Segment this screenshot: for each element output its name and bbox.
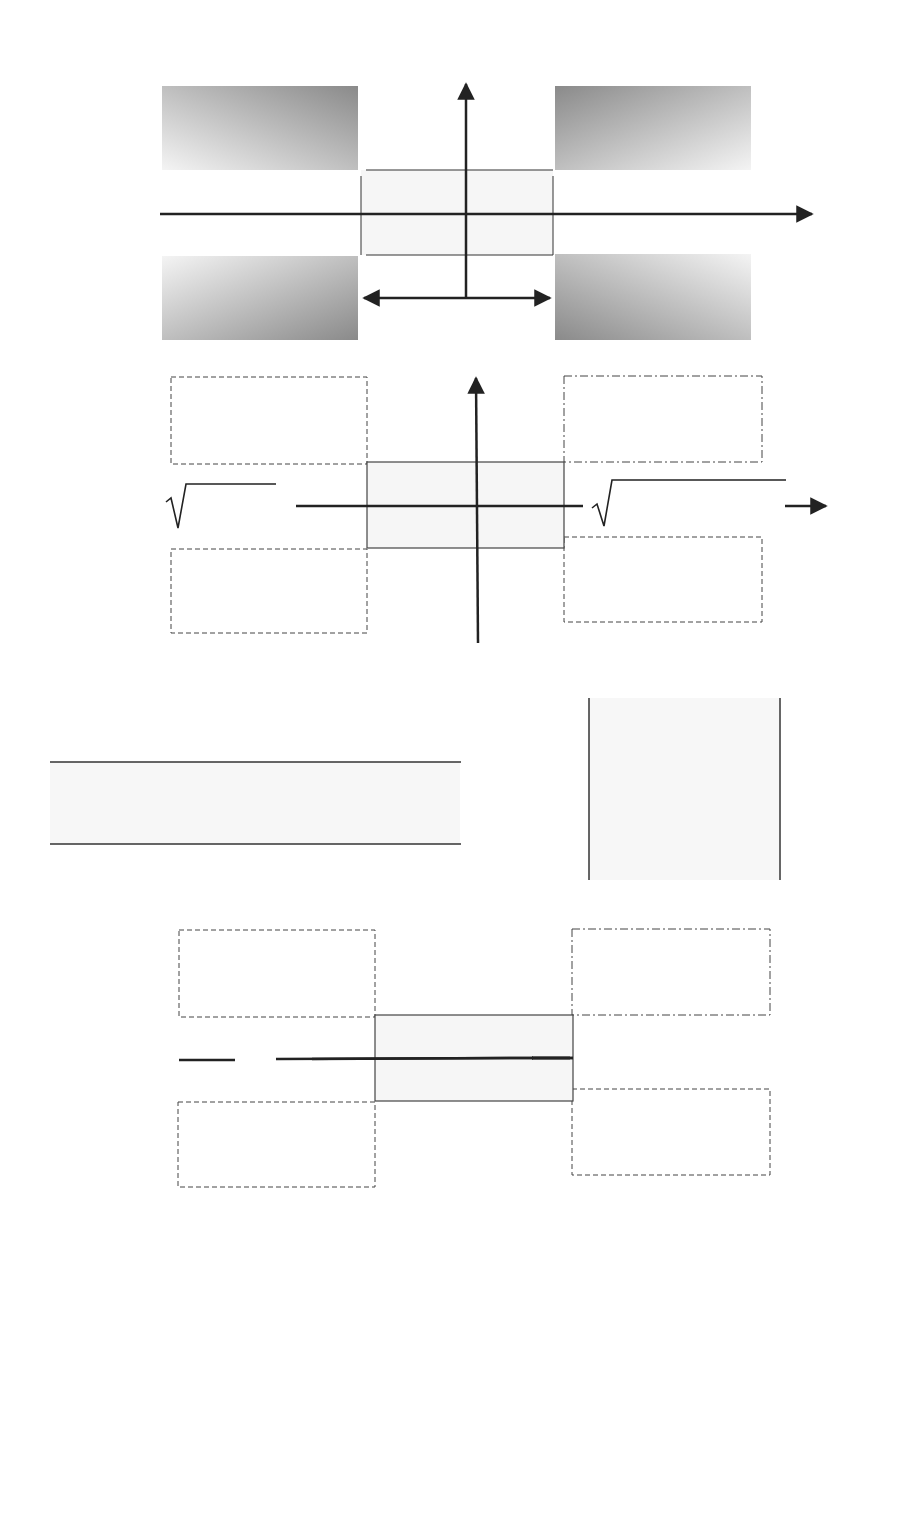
cladding-bottom-left [162,256,358,340]
x-axis-segment-core [312,1058,532,1059]
dashdot-box-top-right [572,929,770,1015]
core-region [361,170,553,255]
dashed-box-top-left [179,930,375,1017]
panel-a [0,0,812,340]
slab-core [50,762,460,844]
cladding-bottom-right [555,254,751,340]
dashed-box-top-left [171,377,367,464]
panel-e [178,929,770,1187]
sqrt-icon [166,484,276,528]
slab-core [589,698,779,880]
sqrt-icon [592,480,786,526]
y-axis-arrow [476,378,478,643]
waveguide-figure [0,0,921,1527]
dashed-box-bottom-left [171,549,367,633]
cladding-top-left [162,86,358,170]
dashed-box-bottom-right [572,1089,770,1175]
dashdot-box-top-right [564,376,762,462]
dashed-box-bottom-right [564,537,762,622]
cladding-top-right [555,86,751,170]
dashed-box-bottom-left [178,1102,375,1187]
